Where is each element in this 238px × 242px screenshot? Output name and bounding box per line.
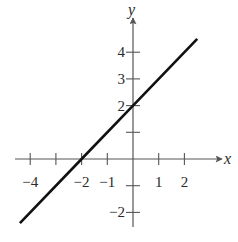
y-tick-label: 2 [118, 98, 126, 114]
y-tick-label: 3 [118, 71, 126, 87]
y-axis-label: y [126, 1, 136, 19]
x-tick-label: −1 [99, 174, 115, 190]
line-graph: −4−2−112−2234 x y [0, 0, 238, 242]
data-series [20, 39, 197, 223]
series-line [20, 39, 197, 223]
x-tick-label: −4 [22, 174, 38, 190]
x-tick-label: 1 [155, 174, 163, 190]
x-tick-label: −2 [74, 174, 90, 190]
y-tick-label: 4 [118, 44, 126, 60]
x-tick-label: 2 [181, 174, 189, 190]
x-axis-label: x [223, 150, 231, 167]
y-tick-label: −2 [109, 204, 125, 220]
